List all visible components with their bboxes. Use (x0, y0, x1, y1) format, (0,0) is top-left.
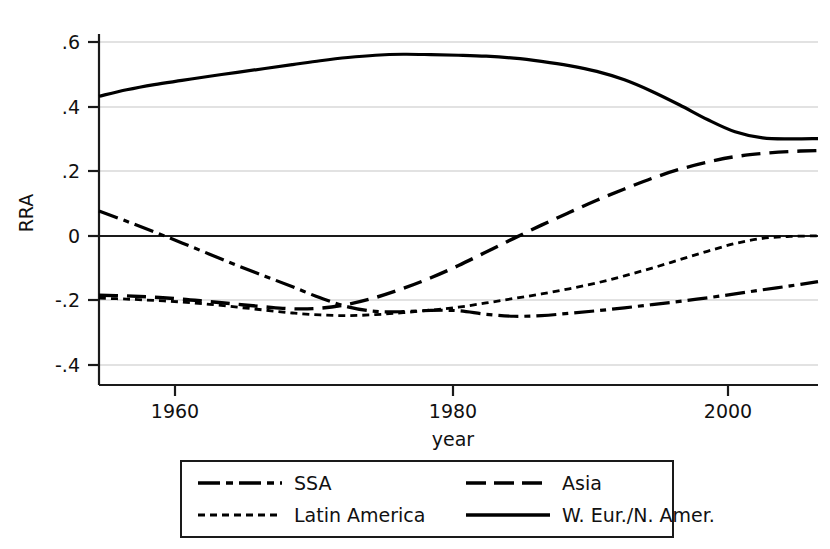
y-tick-label-0.6: .6 (62, 31, 80, 53)
x-tick-label-1960: 1960 (151, 400, 199, 422)
y-axis-title: RRA (15, 194, 37, 233)
data-series-group (99, 54, 818, 316)
y-axis-ticks (88, 42, 99, 365)
legend-label-ssa: SSA (294, 472, 331, 494)
legend-label-w-eur-n-amer: W. Eur./N. Amer. (562, 504, 715, 526)
legend: SSA Asia Latin America W. Eur./N. Amer. (181, 461, 715, 537)
series-path-latin-america (99, 236, 818, 316)
y-tick-label-0.4: .4 (62, 96, 80, 118)
x-axis-tick-labels: 1960 1980 2000 (151, 400, 752, 422)
series-path-w-eur-n-amer (99, 54, 818, 139)
x-axis-title: year (432, 428, 475, 450)
y-tick-label--0.4: -.4 (55, 354, 80, 376)
x-tick-label-2000: 2000 (704, 400, 752, 422)
x-tick-label-1980: 1980 (429, 400, 477, 422)
series-path-asia (99, 151, 818, 309)
legend-label-latin-america: Latin America (294, 504, 425, 526)
y-tick-label--0.2: -.2 (55, 289, 80, 311)
rra-line-chart: .6 .4 .2 0 -.2 -.4 RRA 1960 1980 2000 ye… (0, 0, 830, 549)
legend-label-asia: Asia (562, 472, 602, 494)
x-axis-ticks (175, 385, 728, 396)
chart-figure: .6 .4 .2 0 -.2 -.4 RRA 1960 1980 2000 ye… (0, 0, 830, 549)
y-tick-label-0.2: .2 (62, 160, 80, 182)
gridlines (99, 42, 818, 365)
y-axis-tick-labels: .6 .4 .2 0 -.2 -.4 (55, 31, 80, 376)
y-tick-label-0: 0 (68, 225, 80, 247)
